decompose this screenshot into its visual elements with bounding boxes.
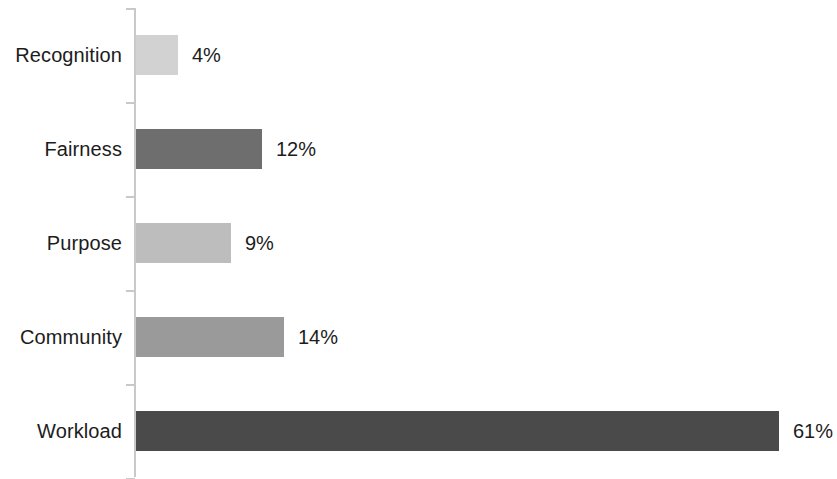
bar-purpose	[136, 223, 231, 263]
bar-row: Workload61%	[0, 384, 837, 478]
bar-recognition	[136, 35, 178, 75]
bar-container: 9%	[136, 196, 274, 290]
category-label-fairness: Fairness	[0, 137, 122, 161]
bar-row: Purpose9%	[0, 196, 837, 290]
bar-community	[136, 317, 284, 357]
bar-row: Recognition4%	[0, 8, 837, 102]
bar-container: 4%	[136, 8, 221, 102]
category-label-community: Community	[0, 325, 122, 349]
category-label-recognition: Recognition	[0, 43, 122, 67]
bar-value-label-purpose: 9%	[245, 231, 274, 255]
bar-value-label-fairness: 12%	[276, 137, 316, 161]
bar-row: Fairness12%	[0, 102, 837, 196]
bar-fairness	[136, 129, 262, 169]
category-label-workload: Workload	[0, 419, 122, 443]
category-label-purpose: Purpose	[0, 231, 122, 255]
bar-chart: Recognition4%Fairness12%Purpose9%Communi…	[0, 0, 837, 479]
bar-container: 12%	[136, 102, 316, 196]
bar-workload	[136, 411, 779, 451]
bar-row: Community14%	[0, 290, 837, 384]
bar-container: 14%	[136, 290, 338, 384]
bar-value-label-recognition: 4%	[192, 43, 221, 67]
bar-value-label-workload: 61%	[793, 419, 833, 443]
bar-value-label-community: 14%	[298, 325, 338, 349]
bar-container: 61%	[136, 384, 833, 478]
